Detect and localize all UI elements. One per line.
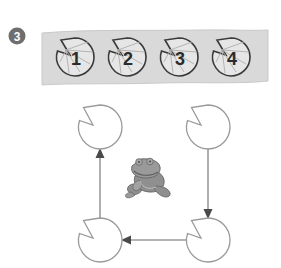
frog-pupil-left [138, 161, 140, 163]
lily-pad-3-label: 3 [175, 49, 185, 69]
arrow-bottom-left-to-top-left [96, 148, 105, 218]
frog-hind-leg [154, 186, 170, 197]
figure-canvas: 3 1 [0, 0, 281, 268]
cycle-node-top-left-shape [79, 105, 122, 149]
badge-label: 3 [14, 30, 21, 44]
cycle-node-bottom-right-shape [187, 218, 230, 262]
cycle-node-bottom-right [187, 218, 230, 262]
figure-svg: 3 1 [0, 0, 281, 268]
cycle-node-bottom-left-shape [79, 218, 122, 262]
cycle-node-bottom-left [79, 218, 122, 262]
panel-number-badge: 3 [9, 28, 26, 45]
frog-pupil-right [149, 160, 151, 162]
arrow-top-right-to-bottom-right [204, 149, 213, 219]
cycle-node-top-right-shape [187, 105, 230, 149]
arrow-bottom-right-to-bottom-left [121, 236, 186, 245]
frog-figure [125, 158, 170, 198]
lily-pad-4-label: 4 [227, 49, 237, 69]
lily-pad-1-label: 1 [71, 49, 81, 69]
cycle-node-top-right [187, 105, 230, 149]
lily-pad-2-label: 2 [123, 49, 133, 69]
cycle-node-top-left [79, 105, 122, 149]
